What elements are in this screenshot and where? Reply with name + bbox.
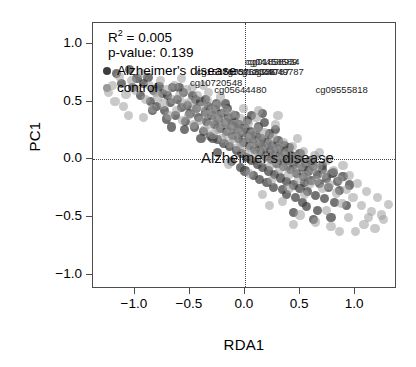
data-point: [351, 227, 360, 236]
data-point: [279, 138, 288, 147]
data-point: [265, 201, 274, 210]
legend-item-alzheimers: Alzheimer's disease: [103, 62, 237, 79]
x-tick-label: 0.5: [276, 296, 322, 311]
legend: Alzheimer's disease control: [103, 62, 237, 96]
x-tick-mark: [354, 288, 355, 294]
y-tick-label: −1.0: [38, 266, 82, 281]
r-squared-symbol: R: [108, 30, 118, 45]
legend-label-control: control: [117, 79, 158, 96]
x-tick-mark: [134, 288, 135, 294]
data-point: [313, 206, 322, 215]
data-point: [362, 187, 371, 196]
data-point: [196, 134, 205, 143]
data-point: [293, 134, 302, 143]
x-tick-mark: [299, 288, 300, 294]
x-tick-label: 1.0: [331, 296, 377, 311]
data-point: [373, 193, 382, 202]
r-squared-line: R2 = 0.005: [108, 26, 194, 45]
data-point: [357, 201, 366, 210]
x-axis-title: RDA1: [92, 336, 396, 353]
data-point: [124, 111, 133, 120]
x-tick-mark: [244, 288, 245, 294]
data-point: [110, 97, 119, 106]
data-point: [273, 111, 282, 120]
legend-marker-icon: [103, 67, 111, 75]
legend-marker-icon: [103, 84, 111, 92]
data-point: [258, 190, 267, 199]
data-point: [370, 224, 379, 233]
data-point: [300, 190, 309, 199]
cpg-probe-label: cg04458589: [245, 56, 297, 67]
y-tick-label: 0.0: [38, 150, 82, 165]
data-point: [377, 210, 386, 219]
r-squared-value: = 0.005: [123, 30, 172, 45]
statistics-annotation: R2 = 0.005 p-value: 0.139: [108, 26, 194, 60]
legend-label-alzheimers: Alzheimer's disease: [117, 62, 237, 79]
data-point: [348, 193, 357, 202]
y-tick-label: −0.5: [38, 208, 82, 223]
data-point: [332, 188, 341, 197]
p-value-line: p-value: 0.139: [108, 45, 194, 60]
data-point: [335, 175, 344, 184]
data-point: [302, 202, 311, 211]
data-point: [180, 125, 189, 134]
data-point: [212, 101, 221, 110]
data-point: [326, 222, 335, 231]
data-point: [278, 197, 287, 206]
data-point: [338, 161, 347, 170]
data-point: [284, 184, 293, 193]
x-tick-label: −1.0: [111, 296, 157, 311]
data-point: [295, 210, 304, 219]
data-point: [311, 191, 320, 200]
data-point: [337, 199, 346, 208]
cpg-probe-label: cg09555818: [315, 84, 367, 95]
data-point: [320, 194, 329, 203]
data-point: [329, 166, 338, 175]
center-annotation-label: Alzheimer's disease: [201, 149, 334, 166]
data-point: [119, 102, 128, 111]
data-point: [353, 179, 362, 188]
data-point: [335, 227, 344, 236]
legend-item-control: control: [103, 79, 237, 96]
data-point: [267, 176, 276, 185]
scatter-plot-figure: PC1 RDA1 −1.0−0.50.00.51.01.00.50.0−0.5−…: [0, 0, 416, 367]
x-tick-label: 0.0: [221, 296, 267, 311]
data-point: [311, 217, 320, 226]
data-point: [322, 206, 331, 215]
data-point: [167, 122, 176, 131]
x-tick-mark: [189, 288, 190, 294]
data-point: [345, 171, 354, 180]
data-point: [320, 170, 329, 179]
data-point: [364, 213, 373, 222]
data-point: [384, 200, 393, 209]
y-tick-label: 1.0: [38, 35, 82, 50]
data-point: [139, 113, 148, 122]
data-point: [245, 169, 254, 178]
data-point: [344, 213, 353, 222]
x-tick-label: −0.5: [166, 296, 212, 311]
y-tick-label: 0.5: [38, 93, 82, 108]
cpg-probe-label: cg12049787: [237, 66, 289, 77]
data-point: [289, 220, 298, 229]
